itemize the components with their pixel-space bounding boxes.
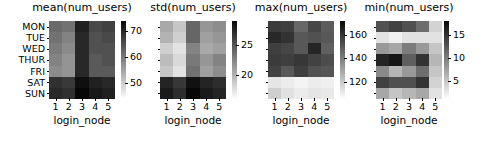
heatmap-cell — [402, 21, 415, 32]
heatmap-cell — [308, 21, 321, 32]
x-tick-4: 4 — [89, 100, 102, 113]
y-tick-mon — [156, 21, 158, 32]
heatmap-cell — [416, 66, 429, 77]
heatmap-cell — [416, 77, 429, 88]
x-tick-5: 5 — [429, 100, 442, 113]
heatmap-cell — [62, 21, 75, 32]
heatmap-cell — [376, 77, 389, 88]
y-tick-thur: THUR — [18, 54, 47, 65]
heatmap-cell — [62, 54, 75, 65]
heatmap-cell — [75, 54, 88, 65]
heatmap-cell — [429, 54, 442, 65]
heatmap-cell — [75, 77, 88, 88]
y-tick-thur — [372, 54, 374, 65]
heatmap-cell — [402, 77, 415, 88]
heatmap-cell — [49, 43, 62, 54]
heatmap-cell — [429, 32, 442, 43]
y-tick-tue: TUE — [26, 32, 47, 43]
x-axis-labels: 12345 — [376, 100, 442, 113]
heatmap-cell — [429, 43, 442, 54]
heatmap-cell — [402, 54, 415, 65]
heatmap-cell — [186, 54, 199, 65]
heatmap-cell — [281, 66, 294, 77]
y-tick-thur — [264, 54, 266, 65]
heatmap-cell — [49, 32, 62, 43]
y-tick-tue — [372, 32, 374, 43]
y-tick-mon — [264, 21, 266, 32]
y-tick-sun: SUN — [25, 88, 47, 99]
heatmap-cell — [49, 54, 62, 65]
heatmap-cell — [294, 43, 307, 54]
heatmap-cell — [268, 43, 281, 54]
heatmap-cell — [281, 77, 294, 88]
y-axis-labels: MONTUEWEDTHURFRISATSUN — [0, 21, 47, 99]
y-tick-tue — [264, 32, 266, 43]
heatmap-cell — [268, 66, 281, 77]
heatmap-cell — [389, 21, 402, 32]
heatmap-cell — [389, 54, 402, 65]
heatmap-cell — [281, 32, 294, 43]
heatmap-cell — [416, 43, 429, 54]
heatmap-cell — [308, 54, 321, 65]
heatmap-grid — [49, 21, 115, 99]
heatmap-cell — [160, 66, 173, 77]
y-tick-sat — [156, 77, 158, 88]
y-tick-tue — [156, 32, 158, 43]
panel-title: min(num_users) — [342, 1, 476, 15]
heatmap-cell — [281, 54, 294, 65]
heatmap-cell — [308, 66, 321, 77]
x-tick-3: 3 — [186, 100, 199, 113]
heatmap-cell — [389, 43, 402, 54]
heatmap-cell — [200, 54, 213, 65]
x-axis-labels: 12345 — [268, 100, 334, 113]
x-axis-labels: 12345 — [49, 100, 115, 113]
heatmap-cell — [200, 21, 213, 32]
heatmap-cell — [416, 21, 429, 32]
heatmap-cell — [62, 66, 75, 77]
heatmap-grid — [376, 21, 442, 99]
x-tick-4: 4 — [416, 100, 429, 113]
heatmap-cell — [376, 43, 389, 54]
y-tick-wed — [264, 43, 266, 54]
y-axis-labels — [220, 21, 266, 99]
heatmap-cell — [389, 66, 402, 77]
heatmap-cell — [402, 66, 415, 77]
heatmap-cell — [160, 77, 173, 88]
y-tick-wed: WED — [22, 43, 47, 54]
y-tick-sat — [264, 77, 266, 88]
x-tick-1: 1 — [376, 100, 389, 113]
y-tick-mon — [372, 21, 374, 32]
x-axis-title: login_node — [376, 113, 442, 127]
x-axis-title: login_node — [49, 113, 115, 127]
heatmap-cell — [268, 32, 281, 43]
heatmap-cell — [308, 43, 321, 54]
heatmap-cell — [294, 77, 307, 88]
heatmap-cell — [89, 66, 102, 77]
heatmap-cell — [89, 43, 102, 54]
heatmap-cell — [49, 77, 62, 88]
y-tick-sun — [264, 88, 266, 99]
heatmap-cell — [160, 54, 173, 65]
heatmap-cell — [160, 21, 173, 32]
heatmap-cell — [89, 21, 102, 32]
heatmap-cell — [294, 54, 307, 65]
y-axis-labels — [112, 21, 158, 99]
heatmap-cell — [376, 66, 389, 77]
x-tick-1: 1 — [49, 100, 62, 113]
heatmap-cell — [186, 66, 199, 77]
heatmap-cell — [160, 43, 173, 54]
heatmap-cell — [200, 77, 213, 88]
heatmap-cell — [429, 77, 442, 88]
x-axis-title: login_node — [160, 113, 226, 127]
heatmap-cell — [173, 32, 186, 43]
heatmap-cell — [75, 32, 88, 43]
heatmap-cell — [416, 54, 429, 65]
colorbar-tick-label: 10 — [449, 53, 465, 63]
heatmap-cell — [89, 77, 102, 88]
heatmap-cell — [376, 32, 389, 43]
heatmap-cell — [89, 54, 102, 65]
y-tick-sat: SAT — [27, 77, 47, 88]
heatmap-cell — [200, 43, 213, 54]
heatmap-cell — [186, 77, 199, 88]
y-tick-wed — [372, 43, 374, 54]
